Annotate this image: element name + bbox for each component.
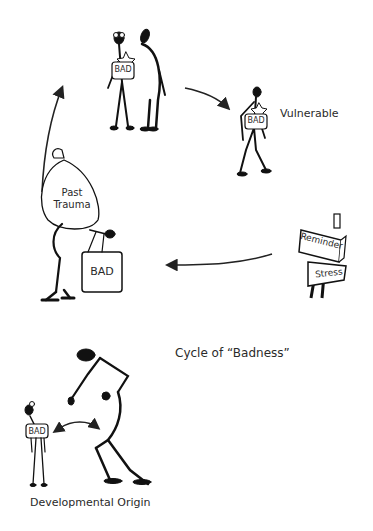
arrow-to-vulnerable [185,88,228,108]
case-label: BAD [82,266,122,278]
vulnerable-figure [237,87,271,176]
vulnerable-box-label: BAD [245,116,267,125]
sack-label-line2: Trauma [50,199,94,211]
arrow-to-burdened [168,254,272,265]
paired-box-label: BAD [112,65,134,74]
child-figure [25,402,48,487]
origin-label: Developmental Origin [30,496,151,509]
sack-label-line1: Past [52,187,92,199]
cycle-of-badness-illustration [0,0,373,531]
adult-figure [68,349,151,485]
bidirectional-arrow [60,422,98,428]
diagram-title: Cycle of “Badness” [175,346,290,360]
child-box-label: BAD [26,427,48,436]
signpost [299,214,346,298]
vulnerable-label: Vulnerable [280,107,339,120]
paired-figures [108,28,165,131]
